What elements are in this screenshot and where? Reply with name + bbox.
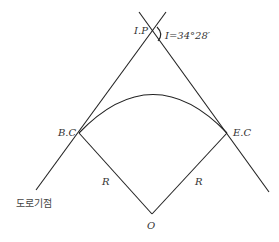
left-tangent-line — [36, 12, 166, 190]
center-label: O — [147, 220, 155, 231]
radius-right-label: R — [194, 176, 203, 187]
radius-left-line — [79, 133, 152, 214]
radius-left-label: R — [101, 176, 110, 187]
bc-label: B.C — [57, 127, 77, 138]
radius-right-line — [152, 133, 227, 214]
ip-label: I.P — [133, 25, 148, 36]
angle-arc-icon — [157, 27, 161, 41]
ec-label: E.C — [232, 127, 251, 138]
angle-label: I=34°28′ — [164, 30, 211, 41]
curve-diagram: I.P I=34°28′ B.C E.C R R O 도로기점 — [0, 0, 279, 242]
road-start-label: 도로기점 — [16, 198, 52, 209]
